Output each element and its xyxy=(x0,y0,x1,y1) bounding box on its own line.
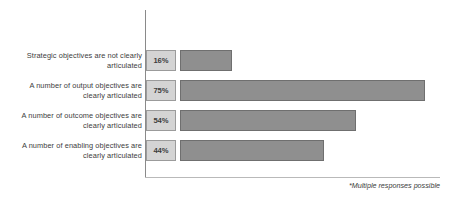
bar-track xyxy=(180,110,446,131)
category-label-line1: A number of enabling objectives are xyxy=(22,141,142,151)
bar-chart-figure: Strategic objectives are not clearly art… xyxy=(0,0,452,200)
bar-track xyxy=(180,140,446,161)
bar-row: A number of outcome objectives are clear… xyxy=(0,106,452,136)
bar xyxy=(180,110,356,131)
bar-rows: Strategic objectives are not clearly art… xyxy=(0,46,452,166)
bar-row: A number of enabling objectives are clea… xyxy=(0,136,452,166)
category-label: A number of output objectives are clearl… xyxy=(14,76,142,106)
value-badge: 16% xyxy=(146,50,176,71)
category-label-line1: A number of output objectives are xyxy=(29,81,142,91)
category-label-line1: Strategic objectives are not clearly xyxy=(27,51,142,61)
value-badge: 54% xyxy=(146,110,176,131)
bar-row: A number of output objectives are clearl… xyxy=(0,76,452,106)
category-label-line2: clearly articulated xyxy=(83,151,142,161)
bar xyxy=(180,50,232,71)
category-label: A number of enabling objectives are clea… xyxy=(14,136,142,166)
chart-footnote: *Multiple responses possible xyxy=(349,181,440,190)
bar-track xyxy=(180,50,446,71)
bar-row: Strategic objectives are not clearly art… xyxy=(0,46,452,76)
category-label-line2: clearly articulated xyxy=(83,121,142,131)
x-axis-line xyxy=(145,177,440,178)
category-label: Strategic objectives are not clearly art… xyxy=(14,46,142,76)
bar xyxy=(180,140,324,161)
category-label-line1: A number of outcome objectives are xyxy=(22,111,142,121)
bar xyxy=(180,80,425,101)
value-badge: 75% xyxy=(146,80,176,101)
value-badge: 44% xyxy=(146,140,176,161)
category-label-line2: clearly articulated xyxy=(83,91,142,101)
category-label-line2: articulated xyxy=(107,61,142,71)
bar-track xyxy=(180,80,446,101)
category-label: A number of outcome objectives are clear… xyxy=(14,106,142,136)
